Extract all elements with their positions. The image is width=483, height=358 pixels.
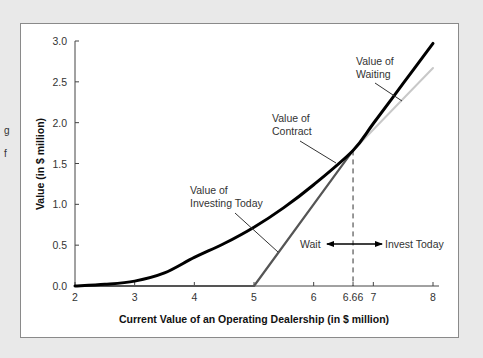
- x-tick-label: 4: [191, 291, 197, 303]
- x-tick-label: 6.66: [343, 291, 364, 303]
- invest-today-label: Invest Today: [385, 238, 445, 250]
- chart: 0.00.51.01.52.02.53.0234566.6678 Value o…: [0, 0, 483, 358]
- y-tick-label: 2.0: [52, 117, 67, 129]
- annotation-value-of-contract: Value of Contract: [272, 112, 336, 163]
- x-tick-label: 8: [430, 291, 436, 303]
- x-tick-label: 5: [251, 291, 257, 303]
- y-tick-label: 0.0: [52, 280, 67, 292]
- svg-text:Investing Today: Investing Today: [190, 197, 264, 209]
- svg-text:Value of: Value of: [272, 112, 310, 124]
- x-axis-title: Current Value of an Operating Dealership…: [119, 313, 389, 325]
- y-tick-label: 0.5: [52, 239, 67, 251]
- annotation-value-of-investing-today: Value of Investing Today: [190, 184, 278, 252]
- svg-text:Value of: Value of: [356, 55, 394, 67]
- svg-text:Contract: Contract: [272, 125, 312, 137]
- y-tick-label: 1.0: [52, 198, 67, 210]
- svg-text:Value of: Value of: [190, 184, 228, 196]
- wait-label: Wait: [300, 238, 321, 250]
- x-tick-label: 7: [370, 291, 376, 303]
- x-tick-label: 2: [72, 291, 78, 303]
- svg-text:Waiting: Waiting: [356, 68, 391, 80]
- y-tick-label: 1.5: [52, 158, 67, 170]
- series-value-of-investing-today: [75, 150, 353, 286]
- y-tick-label: 2.5: [52, 76, 67, 88]
- y-tick-label: 3.0: [52, 35, 67, 47]
- y-axis-title: Value (in $ million): [34, 118, 46, 210]
- x-tick-label: 3: [132, 291, 138, 303]
- x-tick-label: 6: [311, 291, 317, 303]
